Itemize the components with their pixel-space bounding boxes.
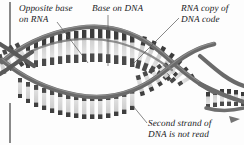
label-base-on-dna: Base on DNA bbox=[92, 3, 143, 14]
label-rna-copy-of-dna-code: RNA copy of DNA code bbox=[181, 3, 228, 24]
leader-second-strand bbox=[133, 106, 147, 123]
lower-strand-bases bbox=[18, 61, 185, 119]
label-opposite-base-on-rna: Opposite base on RNA bbox=[19, 3, 73, 24]
right-margin-fragment bbox=[229, 116, 240, 123]
right-helix-tail bbox=[206, 108, 244, 111]
right-helix-arm-lower bbox=[200, 56, 244, 86]
figure-canvas: Opposite base on RNA Base on DNA RNA cop… bbox=[0, 0, 244, 145]
label-second-strand-not-read: Second strand of DNA is not read bbox=[148, 118, 211, 139]
